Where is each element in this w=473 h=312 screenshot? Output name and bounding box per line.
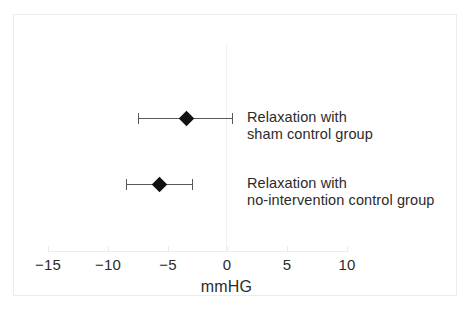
x-axis-tick--10 xyxy=(108,246,109,252)
x-axis-tick-label--15: −15 xyxy=(18,256,78,273)
x-axis-tick-label-0: 0 xyxy=(197,256,257,273)
x-axis-tick-5 xyxy=(287,246,288,252)
plot-frame: Relaxation with sham control group Relax… xyxy=(13,14,457,296)
x-axis-tick-label-5: 5 xyxy=(257,256,317,273)
x-axis-tick-label--5: −5 xyxy=(138,256,198,273)
x-axis-line xyxy=(48,251,348,252)
confidence-interval-cap-high-row-0 xyxy=(232,113,233,124)
point-estimate-diamond-row-1 xyxy=(152,177,168,193)
x-axis-tick-label-10: 10 xyxy=(317,256,377,273)
confidence-interval-cap-low-row-1 xyxy=(126,179,127,190)
x-axis-tick-10 xyxy=(347,246,348,252)
row-label-line1-row-1: Relaxation with xyxy=(247,175,347,191)
confidence-interval-cap-low-row-0 xyxy=(138,113,139,124)
x-axis-tick--15 xyxy=(48,246,49,252)
x-axis-tick-0 xyxy=(227,246,228,252)
point-estimate-diamond-row-0 xyxy=(179,111,195,127)
row-label-row-1: Relaxation with no-intervention control … xyxy=(247,175,435,209)
row-label-line2-row-1: no-intervention control group xyxy=(247,192,435,209)
x-axis-tick-label--10: −10 xyxy=(78,256,138,273)
row-label-line2-row-0: sham control group xyxy=(247,126,373,143)
confidence-interval-cap-high-row-1 xyxy=(192,179,193,190)
row-label-line1-row-0: Relaxation with xyxy=(247,109,347,125)
x-axis-title: mmHG xyxy=(14,278,439,296)
row-label-row-0: Relaxation with sham control group xyxy=(247,109,373,143)
reference-line-zero xyxy=(226,45,227,252)
forest-plot-figure: Relaxation with sham control group Relax… xyxy=(0,0,473,312)
x-axis-tick--5 xyxy=(168,246,169,252)
